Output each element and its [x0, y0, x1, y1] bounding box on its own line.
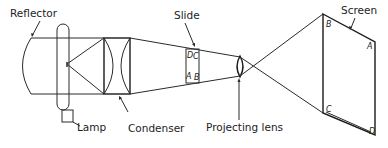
- condenser-leader: [120, 97, 128, 112]
- slide-point-b: B: [194, 73, 200, 82]
- lamp: [57, 24, 73, 122]
- condenser: [104, 38, 130, 94]
- screen-point-c: C: [326, 105, 332, 114]
- lamp-label: Lamp: [77, 121, 107, 133]
- slide-leader: [185, 23, 194, 45]
- condenser-label: Condenser: [128, 122, 185, 134]
- slide-label: Slide: [174, 9, 200, 21]
- slide-point-a: A: [185, 72, 191, 81]
- projecting-lens-label: Projecting lens: [206, 121, 283, 133]
- screen-label: Screen: [341, 4, 377, 16]
- screen-point-a: A: [366, 42, 372, 51]
- reflector-label: Reflector: [10, 7, 58, 19]
- projector-diagram: Reflector Lamp Condenser Slide Projectin…: [0, 0, 388, 148]
- slide-point-c: C: [193, 52, 199, 61]
- screen-point-b: B: [326, 20, 332, 29]
- screen: [323, 14, 375, 135]
- screen-point-d: D: [369, 127, 375, 136]
- screen-leader: [351, 18, 355, 28]
